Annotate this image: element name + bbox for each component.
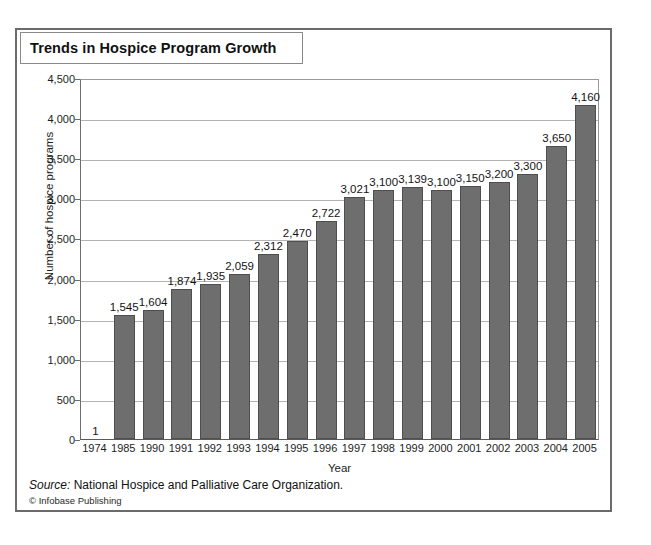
x-axis-tick-label: 1990	[140, 442, 164, 454]
bar	[517, 174, 538, 439]
bar-value-label: 1,545	[110, 301, 139, 313]
x-axis-title: Year	[80, 462, 599, 474]
bar-value-label: 2,059	[225, 260, 254, 272]
bar-value-label: 4,160	[571, 91, 600, 103]
x-axis-tick-label: 1994	[255, 442, 279, 454]
source-line: Source: National Hospice and Palliative …	[29, 478, 589, 492]
x-axis-tick-label: 2001	[457, 442, 481, 454]
y-axis-tick-label: 1,000	[47, 354, 75, 366]
bar	[373, 190, 394, 439]
bar	[200, 284, 221, 439]
x-axis-tick-label: 1991	[169, 442, 193, 454]
bar-value-label: 3,100	[369, 176, 398, 188]
x-axis-tick-label: 1996	[313, 442, 337, 454]
x-axis-tick-label: 2003	[515, 442, 539, 454]
y-axis-tick-label: 500	[57, 394, 75, 406]
bar-value-label: 1,604	[139, 296, 168, 308]
bar	[546, 146, 567, 439]
plot-region: 05001,0001,5002,0002,5003,0003,5004,0004…	[17, 30, 614, 514]
x-axis-ticks: 1974198519901991199219931994199519961997…	[80, 442, 599, 462]
x-axis-tick-label: 1993	[226, 442, 250, 454]
y-axis-tick-mark	[75, 440, 80, 441]
bar	[575, 105, 596, 439]
x-axis-tick-label: 1997	[342, 442, 366, 454]
copyright-line: © Infobase Publishing	[29, 495, 589, 506]
source-text: National Hospice and Palliative Care Org…	[74, 478, 343, 492]
bar	[287, 241, 308, 439]
y-axis-title: Number of hospice programs	[43, 86, 55, 326]
bar-value-label: 3,150	[456, 172, 485, 184]
bar	[489, 182, 510, 439]
x-axis-tick-label: 2004	[544, 442, 568, 454]
x-axis-tick-label: 2002	[486, 442, 510, 454]
bar-value-label: 1,935	[196, 270, 225, 282]
bar	[344, 197, 365, 439]
bar	[460, 186, 481, 439]
bar	[402, 187, 423, 439]
bar	[114, 315, 135, 439]
bar	[258, 254, 279, 439]
x-axis-tick-label: 1998	[371, 442, 395, 454]
x-axis-tick-label: 1995	[284, 442, 308, 454]
figure-frame: Trends in Hospice Program Growth 05001,0…	[15, 28, 612, 512]
bar-value-label: 3,021	[341, 183, 370, 195]
bar-value-label: 3,300	[514, 160, 543, 172]
bar	[316, 221, 337, 439]
bar-value-label: 3,200	[485, 168, 514, 180]
bar-value-label: 2,470	[283, 227, 312, 239]
gridline	[81, 120, 598, 121]
x-axis-tick-label: 1999	[399, 442, 423, 454]
x-axis-tick-label: 1974	[82, 442, 106, 454]
bar-value-label: 2,722	[312, 207, 341, 219]
x-axis-tick-label: 1992	[198, 442, 222, 454]
bar	[171, 289, 192, 439]
x-axis-tick-label: 2005	[572, 442, 596, 454]
figure-footer: Source: National Hospice and Palliative …	[29, 478, 589, 506]
bar-value-label: 3,139	[398, 173, 427, 185]
bar	[431, 190, 452, 439]
plot-area: 11,5451,6041,8741,9352,0592,3122,4702,72…	[80, 79, 599, 440]
bar-value-label: 2,312	[254, 240, 283, 252]
x-axis-tick-label: 1985	[111, 442, 135, 454]
x-axis-tick-label: 2000	[428, 442, 452, 454]
source-label: Source:	[29, 478, 70, 492]
bar	[143, 310, 164, 439]
bar-value-label: 3,100	[427, 176, 456, 188]
bar-value-label: 1,874	[168, 275, 197, 287]
bar-value-label: 1	[92, 425, 98, 437]
bar-value-label: 3,650	[542, 132, 571, 144]
y-axis-tick-label: 4,500	[47, 73, 75, 85]
bar	[229, 274, 250, 439]
